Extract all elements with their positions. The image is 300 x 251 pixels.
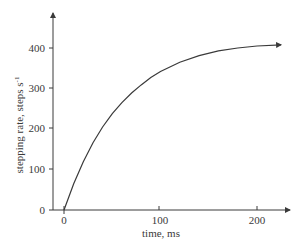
y-tick-label: 400: [29, 42, 46, 54]
y-tick-label: 0: [40, 204, 46, 216]
y-tick-label: 300: [29, 82, 46, 94]
chart-canvas: 0 100 200 300 400 0 100 200 time, ms ste…: [0, 0, 300, 251]
data-curve: [64, 45, 281, 210]
y-tick-label: 100: [29, 163, 46, 175]
x-axis-label: time, ms: [142, 227, 180, 239]
y-axis-label: stepping rate, steps s-1: [13, 76, 25, 173]
x-tick-label: 100: [152, 214, 169, 226]
x-tick-label: 0: [61, 214, 67, 226]
x-tick-label: 200: [249, 214, 266, 226]
x-tick-labels: 0 100 200: [61, 214, 266, 226]
y-tick-label: 200: [29, 122, 46, 134]
y-ticks: [49, 48, 53, 210]
y-tick-labels: 0 100 200 300 400: [29, 42, 46, 216]
